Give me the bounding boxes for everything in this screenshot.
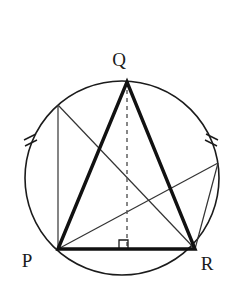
- chord-p-to-right: [58, 163, 218, 249]
- geometry-figure: P Q R: [0, 0, 242, 283]
- geometry-canvas: P Q R: [0, 0, 242, 283]
- vertex-label-q: Q: [112, 49, 126, 70]
- vertex-label-r: R: [201, 253, 214, 274]
- vertex-label-p: P: [22, 250, 33, 271]
- tick-mark-right-1: [206, 134, 218, 140]
